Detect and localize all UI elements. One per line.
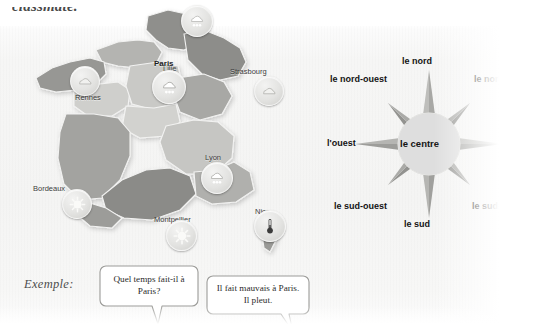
city-label-lyon: Lyon <box>205 153 221 162</box>
speech-bubble-question-text: Quel temps fait-il à Paris? <box>98 264 200 306</box>
cloud-rain-icon <box>207 168 227 188</box>
example-label: Exemple: <box>24 277 74 292</box>
weather-badge-bordeaux[interactable] <box>62 189 92 219</box>
sun-icon <box>172 226 192 246</box>
city-label-bordeaux: Bordeaux <box>33 184 65 193</box>
compass-label-north: le nord <box>402 56 432 66</box>
compass-label-southwest: le sud-ouest <box>334 201 387 211</box>
cloud-icon <box>260 82 279 101</box>
cloud-rain-icon <box>187 11 207 31</box>
weather-badge-lyon[interactable] <box>201 162 233 194</box>
compass-label-northwest: le nord-ouest <box>330 74 387 84</box>
sun-icon <box>68 195 87 214</box>
city-label-strasbourg: Strasbourg <box>230 67 267 76</box>
compass-label-west: l'ouest <box>327 138 356 148</box>
cloud-rain-icon <box>159 77 180 98</box>
weather-badge-paris[interactable] <box>152 70 186 104</box>
weather-badge-rennes[interactable] <box>70 66 100 96</box>
map-of-france: Lille Rennes Paris Strasbourg Lyon Borde… <box>18 4 318 274</box>
cloud-icon <box>76 72 95 91</box>
weather-badge-strasbourg[interactable] <box>254 76 284 106</box>
weather-badge-montpellier[interactable] <box>166 220 197 251</box>
weather-badge-nice[interactable] <box>254 210 286 242</box>
weather-badge-lille[interactable] <box>181 5 213 37</box>
page-canvas: classmate. <box>0 0 552 332</box>
thermometer-icon <box>260 216 280 236</box>
bottom-white-fade <box>0 306 552 332</box>
city-label-paris: Paris <box>154 59 174 68</box>
right-white-fade <box>434 0 552 332</box>
compass-label-south: le sud <box>404 219 430 229</box>
